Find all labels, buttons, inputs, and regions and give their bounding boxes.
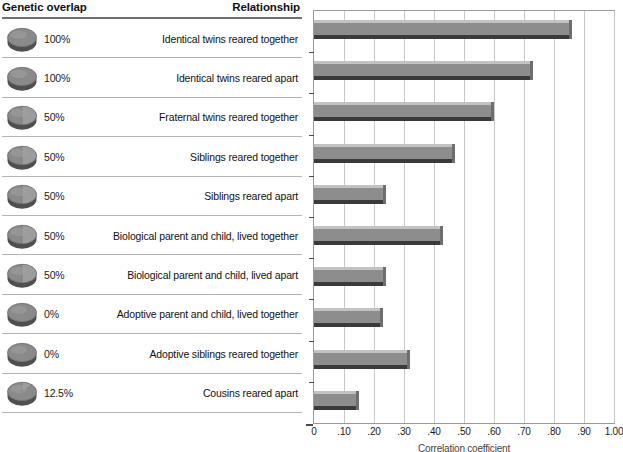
bar-shadow <box>314 241 443 245</box>
column-header-relationship: Relationship <box>232 1 300 13</box>
genetic-overlap-value: 0% <box>44 308 100 320</box>
row-separator <box>2 412 302 413</box>
bar-shadow <box>314 323 383 327</box>
relationship-label: Siblings reared apart <box>100 190 306 202</box>
bar-capR <box>356 391 359 410</box>
bar-shadow <box>314 76 533 80</box>
pie-disc-icon <box>0 65 44 91</box>
x-tick-label: .40 <box>427 426 440 437</box>
row-tick <box>309 382 314 383</box>
bar-body <box>314 311 383 323</box>
bar-body <box>314 188 386 200</box>
x-tick-label: .20 <box>367 426 380 437</box>
bar-shadow <box>314 282 386 286</box>
table-row: 50%Biological parent and child, lived ap… <box>0 255 306 294</box>
bar-row <box>314 52 614 93</box>
x-tick-label: .30 <box>397 426 410 437</box>
x-tick-label: 0 <box>311 426 316 437</box>
bars-group <box>314 11 614 423</box>
bar-capR <box>569 20 572 39</box>
row-tick <box>309 135 314 136</box>
bar-capR <box>530 61 533 80</box>
x-tick-label: .10 <box>337 426 350 437</box>
bar-capR <box>452 144 455 163</box>
bar-shadow <box>314 159 455 163</box>
bar-row <box>314 382 614 423</box>
bar-body <box>314 105 494 117</box>
bar <box>314 185 386 204</box>
genetic-overlap-value: 50% <box>44 151 100 163</box>
relationship-label: Biological parent and child, lived apart <box>100 269 306 281</box>
pie-disc-icon <box>0 104 44 130</box>
genetic-overlap-value: 50% <box>44 269 100 281</box>
pie-disc-icon <box>0 262 44 288</box>
bar-shadow <box>314 35 572 39</box>
x-tick-label: .80 <box>547 426 560 437</box>
bar-shadow <box>314 117 494 121</box>
bar-body <box>314 147 455 159</box>
bar-body <box>314 353 410 365</box>
bar-shadow <box>314 406 359 410</box>
relationship-label: Identical twins reared apart <box>100 72 306 84</box>
relationship-label: Fraternal twins reared together <box>100 111 306 123</box>
table-row: 0%Adoptive siblings reared together <box>0 334 306 373</box>
pie-disc-icon <box>0 144 44 170</box>
x-tick-label: 1.00 <box>605 426 623 437</box>
relationship-label: Identical twins reared together <box>100 33 306 45</box>
bar <box>314 226 443 245</box>
table-header-row: Genetic overlap Relationship <box>0 0 306 18</box>
bar-capR <box>380 308 383 327</box>
table-row: 12.5%Cousins reared apart <box>0 374 306 413</box>
genetic-overlap-value: 50% <box>44 190 100 202</box>
bar-capR <box>383 267 386 286</box>
genetic-overlap-value: 50% <box>44 111 100 123</box>
pie-disc-icon <box>0 301 44 327</box>
pie-disc-icon <box>0 26 44 52</box>
bar-body <box>314 23 572 35</box>
bar-row <box>314 341 614 382</box>
pie-disc-icon <box>0 223 44 249</box>
bar <box>314 350 410 369</box>
relationship-label: Biological parent and child, lived toget… <box>100 230 306 242</box>
bar-body <box>314 394 359 406</box>
bar-shadow <box>314 200 386 204</box>
gridline <box>614 11 615 423</box>
plot-area <box>313 10 615 424</box>
x-axis-title: Correlation coefficient <box>306 443 622 452</box>
table-row: 50%Biological parent and child, lived to… <box>0 216 306 255</box>
bar-row <box>314 299 614 340</box>
relationship-label: Adoptive parent and child, lived togethe… <box>100 308 306 320</box>
bar <box>314 144 455 163</box>
relationship-label: Cousins reared apart <box>100 387 306 399</box>
genetic-overlap-value: 100% <box>44 72 100 84</box>
row-tick <box>309 93 314 94</box>
bar-row <box>314 176 614 217</box>
bar-chart-panel: 0.10.20.30.40.50.60.70.80.901.00 Correla… <box>306 0 622 452</box>
table-row: 0%Adoptive parent and child, lived toget… <box>0 295 306 334</box>
row-tick <box>309 52 314 53</box>
genetic-overlap-value: 100% <box>44 33 100 45</box>
bar-body <box>314 64 533 76</box>
x-tick-label: .70 <box>517 426 530 437</box>
x-tick-label: .90 <box>577 426 590 437</box>
bar <box>314 102 494 121</box>
bar-capR <box>491 102 494 121</box>
row-tick <box>309 299 314 300</box>
row-tick <box>309 217 314 218</box>
genetic-overlap-value: 0% <box>44 348 100 360</box>
table-row: 100%Identical twins reared apart <box>0 58 306 97</box>
row-tick <box>309 341 314 342</box>
bar-shadow <box>314 365 410 369</box>
relationship-label: Adoptive siblings reared together <box>100 348 306 360</box>
pie-disc-icon <box>0 380 44 406</box>
x-tick-label: .60 <box>487 426 500 437</box>
pie-disc-icon <box>0 183 44 209</box>
bar-row <box>314 217 614 258</box>
relationship-label: Siblings reared together <box>100 151 306 163</box>
relationship-table: Genetic overlap Relationship 100%Identic… <box>0 0 306 452</box>
bar-body <box>314 229 443 241</box>
bar <box>314 391 359 410</box>
row-tick <box>309 176 314 177</box>
bar <box>314 20 572 39</box>
